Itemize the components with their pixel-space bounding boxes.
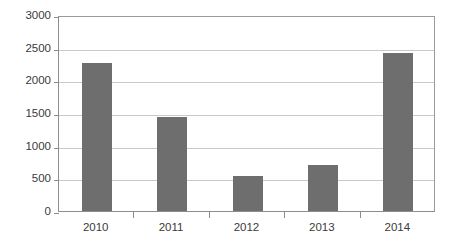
x-axis-tick-label: 2012	[209, 221, 284, 234]
y-axis-tick-label: 1000	[5, 141, 51, 153]
y-axis-tick-label: 2500	[5, 43, 51, 55]
bar-2014	[383, 53, 413, 211]
bars-layer	[59, 17, 434, 211]
x-axis: 20102011201220132014	[58, 221, 435, 241]
x-axis-tick-label: 2014	[360, 221, 435, 234]
bar-2013	[308, 165, 338, 211]
x-axis-tick-label: 2013	[284, 221, 359, 234]
y-axis-tick-label: 500	[5, 173, 51, 185]
y-axis-tick-label: 3000	[5, 10, 51, 22]
y-axis-tick-label: 2000	[5, 75, 51, 87]
y-axis: 050010001500200025003000	[0, 16, 51, 212]
x-axis-tick	[133, 212, 134, 218]
y-axis-tick-label: 0	[5, 206, 51, 218]
y-axis-tick-label: 1500	[5, 108, 51, 120]
x-axis-tick	[209, 212, 210, 218]
plot-area	[58, 16, 435, 212]
bar-2012	[233, 176, 263, 211]
x-axis-tick	[360, 212, 361, 218]
x-axis-tick	[284, 212, 285, 218]
bar-chart: 050010001500200025003000 201020112012201…	[0, 0, 450, 248]
bar-2011	[157, 117, 187, 211]
x-axis-ticks	[58, 212, 435, 218]
bar-2010	[82, 63, 112, 211]
x-axis-tick-label: 2011	[133, 221, 208, 234]
x-axis-tick-label: 2010	[58, 221, 133, 234]
